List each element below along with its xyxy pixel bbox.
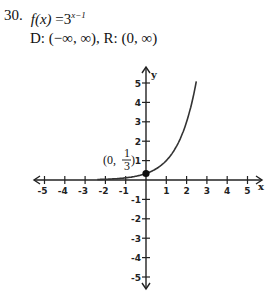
y-tick-label: -1 xyxy=(131,195,141,205)
x-tick-label: 2 xyxy=(183,186,189,196)
x-tick-label: -4 xyxy=(58,186,68,196)
x-axis-label: x xyxy=(258,181,265,192)
x-tick-label: 1 xyxy=(163,186,169,196)
function-graph: -5-4-3-2-112345 54321-1-2-3-4-5 x y (0, … xyxy=(0,0,273,299)
y-tick-label: 1 xyxy=(135,156,141,166)
y-tick-label: -3 xyxy=(131,234,141,244)
x-axis xyxy=(34,176,262,184)
x-tick-label: 3 xyxy=(204,186,210,196)
x-tick-label: -5 xyxy=(38,186,48,196)
point-label-denominator: 3 xyxy=(124,159,130,173)
x-tick-label: -1 xyxy=(119,186,129,196)
x-tick-label: 5 xyxy=(244,186,250,196)
y-tick-label: 2 xyxy=(135,137,141,147)
x-tick-labels: -5-4-3-2-112345 xyxy=(38,186,251,196)
x-tick-label: -3 xyxy=(78,186,88,196)
x-tick-label: 4 xyxy=(224,186,230,196)
y-tick-label: -2 xyxy=(131,214,141,224)
y-axis-label: y xyxy=(150,69,158,80)
y-axis xyxy=(142,67,150,289)
y-tick-label: 3 xyxy=(135,117,141,127)
y-intercept-point xyxy=(142,170,149,177)
point-label-open: (0, xyxy=(103,153,116,167)
y-tick-label: -5 xyxy=(131,273,141,283)
point-label-close: ) xyxy=(131,153,135,167)
point-label: (0, 1 3 ) xyxy=(103,146,135,173)
x-tick-label: -2 xyxy=(98,186,108,196)
point-label-numerator: 1 xyxy=(124,146,130,160)
y-tick-label: -4 xyxy=(131,253,141,263)
y-tick-label: 5 xyxy=(135,79,141,89)
y-tick-label: 4 xyxy=(135,98,141,108)
